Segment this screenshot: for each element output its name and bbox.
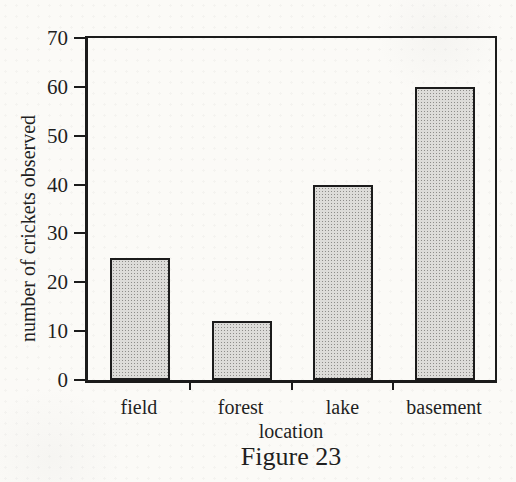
bar-basement <box>415 87 475 380</box>
bar-field <box>110 258 170 380</box>
y-tick-mark <box>74 86 86 88</box>
bar-forest <box>212 321 272 380</box>
x-tick-mark <box>392 383 394 390</box>
y-tick-mark <box>74 37 86 39</box>
plot-area <box>85 36 497 383</box>
y-tick-label: 50 <box>18 124 68 148</box>
x-category-label-forest: forest <box>218 396 264 419</box>
y-tick-mark <box>74 184 86 186</box>
y-tick-label: 10 <box>18 319 68 343</box>
x-tick-mark <box>189 383 191 390</box>
x-category-label-basement: basement <box>406 396 482 419</box>
y-tick-mark <box>74 379 86 381</box>
y-tick-label: 30 <box>18 221 68 245</box>
y-tick-label: 0 <box>18 368 68 392</box>
bar-lake <box>313 185 373 380</box>
y-tick-mark <box>74 281 86 283</box>
y-tick-mark <box>74 330 86 332</box>
figure-caption: Figure 23 <box>241 442 341 472</box>
scanned-figure-page: number of crickets observed 010203040506… <box>0 0 516 482</box>
y-tick-label: 40 <box>18 173 68 197</box>
y-tick-mark <box>74 135 86 137</box>
y-tick-label: 70 <box>18 26 68 50</box>
x-axis-title: location <box>259 420 323 443</box>
x-category-label-field: field <box>121 396 158 419</box>
y-tick-label: 20 <box>18 270 68 294</box>
y-tick-label: 60 <box>18 75 68 99</box>
x-category-label-lake: lake <box>326 396 359 419</box>
y-tick-mark <box>74 232 86 234</box>
x-tick-mark <box>291 383 293 390</box>
